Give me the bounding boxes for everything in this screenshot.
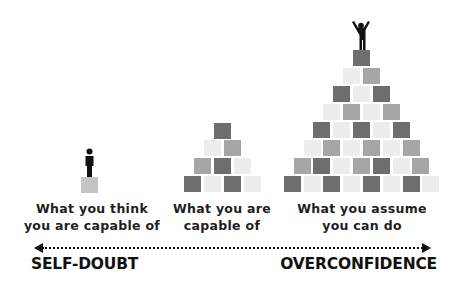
pyramid-block-light: [343, 68, 360, 84]
label-actual: What you are capable of: [162, 200, 282, 234]
pyramid-block-dark: [393, 122, 410, 138]
pyramid-block-medium: [323, 140, 340, 156]
pyramid-block-dark: [373, 86, 390, 102]
person-arms-raised-icon: [351, 20, 371, 51]
pyramid-block-light: [383, 140, 400, 156]
axis-label-self-doubt: SELF-DOUBT: [31, 255, 138, 273]
pyramid-block-dark: [184, 176, 201, 192]
pyramid-block-dark: [284, 176, 301, 192]
pyramid-block-dark: [353, 122, 370, 138]
pyramid-block-dark: [313, 158, 330, 174]
pyramid-block-light: [204, 176, 221, 192]
pyramid-block-dark: [224, 176, 241, 192]
pyramid-block-light: [304, 176, 321, 192]
label-think-line1: What you think: [22, 200, 162, 217]
pyramid-block-medium: [353, 158, 370, 174]
capability-perception-diagram: What you think you are capable of What y…: [0, 0, 462, 283]
pyramid-block-light: [343, 176, 360, 192]
pyramid-block-medium: [224, 140, 241, 156]
pyramid-block-light: [333, 122, 350, 138]
label-think: What you think you are capable of: [22, 200, 162, 234]
pyramid-block-dark: [363, 176, 380, 192]
label-assume-line2: you can do: [292, 217, 432, 234]
pyramid-block-dark: [403, 176, 420, 192]
pyramid-block-light: [353, 86, 370, 102]
pyramid-block-dark: [214, 123, 231, 139]
pyramid-block-light: [343, 140, 360, 156]
pyramid-block-light: [304, 140, 321, 156]
label-actual-line1: What you are: [162, 200, 282, 217]
pyramid-block-light: [422, 176, 439, 192]
pyramid-block-medium: [363, 140, 380, 156]
pyramid-block-medium: [194, 158, 211, 174]
pyramid-block-light: [244, 176, 261, 192]
pyramid-block-light: [393, 158, 410, 174]
pyramid-block-light: [204, 140, 221, 156]
pyramid-block-dark: [373, 158, 390, 174]
pyramid-block-light: [323, 104, 340, 120]
axis-label-overconfidence: OVERCONFIDENCE: [280, 255, 437, 273]
pyramid-block-light: [363, 104, 380, 120]
pyramid-block-light: [234, 158, 251, 174]
pyramid-block-dark: [313, 122, 330, 138]
pyramid-block-single: [81, 177, 98, 193]
label-assume: What you assume you can do: [292, 200, 432, 234]
label-think-line2: you are capable of: [22, 217, 162, 234]
pyramid-block-light: [333, 158, 350, 174]
pyramid-block-medium: [383, 104, 400, 120]
label-actual-line2: capable of: [162, 217, 282, 234]
arrow-right-icon: [422, 243, 431, 253]
person-standing-icon: [83, 148, 96, 178]
pyramid-block-medium: [363, 68, 380, 84]
pyramid-block-medium: [294, 158, 311, 174]
pyramid-block-medium: [403, 140, 420, 156]
pyramid-block-dark: [333, 86, 350, 102]
pyramid-block-dark: [214, 158, 231, 174]
pyramid-block-dark: [353, 50, 370, 66]
pyramid-block-medium: [412, 158, 429, 174]
pyramid-block-medium: [343, 104, 360, 120]
pyramid-block-dark: [323, 176, 340, 192]
label-assume-line1: What you assume: [292, 200, 432, 217]
spectrum-axis-line: [42, 247, 423, 249]
pyramid-block-light: [373, 122, 390, 138]
pyramid-block-light: [383, 176, 400, 192]
